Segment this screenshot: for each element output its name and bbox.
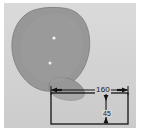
dimension-rectangle	[51, 93, 128, 124]
height-dimension-label: 45	[102, 110, 112, 117]
marker-upper	[52, 36, 55, 39]
width-dimension-label: 160	[95, 86, 111, 94]
marker-lower	[49, 62, 52, 65]
diagram-canvas	[0, 0, 143, 139]
figure-root: 160 45	[0, 0, 143, 139]
